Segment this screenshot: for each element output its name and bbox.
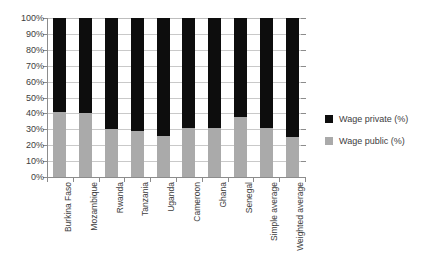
y-axis-label: 0% (4, 173, 44, 182)
bar-column[interactable] (182, 18, 195, 177)
x-tick (305, 178, 306, 182)
bar-column[interactable] (105, 18, 118, 177)
x-tick (228, 178, 229, 182)
legend-swatch-icon (325, 115, 333, 123)
y-axis-label: 60% (4, 78, 44, 87)
category-label: Weighted average (296, 182, 305, 251)
category-label: Senegal (245, 182, 254, 213)
bar-segment-wage-private (157, 18, 170, 136)
stacked-bar-chart: 100%90%80%70%60%50%40%30%20%10%0% Burkin… (0, 0, 433, 277)
bar-segment-wage-private (79, 18, 92, 113)
bar-segment-wage-private (208, 18, 221, 128)
y-axis-label: 40% (4, 109, 44, 118)
legend-swatch-icon (325, 137, 333, 145)
bar-segment-wage-private (234, 18, 247, 117)
legend: Wage private (%)Wage public (%) (325, 108, 431, 152)
bar-column[interactable] (53, 18, 66, 177)
category-label: Uganda (167, 182, 176, 212)
bar-segment-wage-public (208, 128, 221, 177)
category-label: Ghana (219, 182, 228, 208)
legend-item[interactable]: Wage public (%) (325, 130, 431, 152)
y-axis-label: 30% (4, 125, 44, 134)
bars-layer (47, 18, 305, 177)
bar-segment-wage-private (260, 18, 273, 128)
x-tick (202, 178, 203, 182)
x-tick (99, 178, 100, 182)
bar-segment-wage-private (182, 18, 195, 128)
x-tick (279, 178, 280, 182)
bar-column[interactable] (234, 18, 247, 177)
legend-label: Wage private (%) (339, 114, 408, 124)
legend-item[interactable]: Wage private (%) (325, 108, 431, 130)
bar-segment-wage-private (131, 18, 144, 131)
y-axis-label: 90% (4, 30, 44, 39)
y-axis-label: 50% (4, 94, 44, 103)
bar-segment-wage-public (182, 128, 195, 177)
bar-segment-wage-public (53, 112, 66, 177)
bar-column[interactable] (79, 18, 92, 177)
category-label: Mozambique (90, 182, 99, 231)
bar-segment-wage-private (53, 18, 66, 112)
bar-column[interactable] (208, 18, 221, 177)
y-axis-label: 70% (4, 62, 44, 71)
x-tick (150, 178, 151, 182)
bar-column[interactable] (260, 18, 273, 177)
bar-segment-wage-public (131, 131, 144, 177)
category-label: Tanzania (141, 182, 150, 216)
bar-segment-wage-public (157, 136, 170, 177)
y-axis-label: 20% (4, 141, 44, 150)
legend-label: Wage public (%) (339, 136, 405, 146)
bar-column[interactable] (286, 18, 299, 177)
category-label: Cameroon (193, 182, 202, 222)
category-label: Rwanda (116, 182, 125, 213)
bar-segment-wage-public (105, 129, 118, 177)
y-axis-label: 80% (4, 46, 44, 55)
bar-segment-wage-public (260, 128, 273, 177)
x-tick (176, 178, 177, 182)
bar-segment-wage-public (234, 117, 247, 177)
bar-segment-wage-private (105, 18, 118, 129)
bar-segment-wage-private (286, 18, 299, 137)
bar-column[interactable] (157, 18, 170, 177)
bar-segment-wage-public (79, 113, 92, 177)
y-axis-label: 10% (4, 157, 44, 166)
bar-segment-wage-public (286, 137, 299, 177)
x-tick (73, 178, 74, 182)
category-label: Burkina Faso (64, 182, 73, 232)
category-label: Simple average (270, 182, 279, 241)
y-axis-label: 100% (4, 14, 44, 23)
bar-column[interactable] (131, 18, 144, 177)
x-tick (47, 178, 48, 182)
